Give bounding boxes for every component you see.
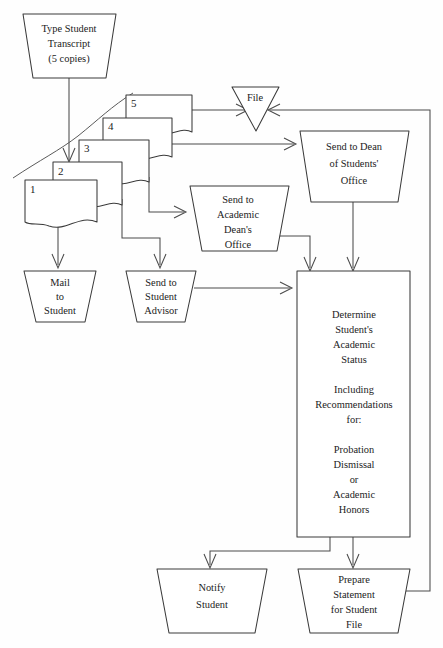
connector-academic-dean-to-process [277, 236, 316, 271]
document-4-number: 4 [108, 120, 114, 132]
node-academic-dean[interactable]: Send to Academic Dean's Office [190, 186, 289, 251]
connector-doc2-to-student-advisor [122, 199, 166, 268]
determine-status-line-2: Student's [335, 324, 373, 335]
academic-dean-line-4: Office [225, 239, 252, 250]
document-5-number: 5 [131, 97, 137, 109]
node-dean-students[interactable]: Send to Dean of Students' Office [300, 131, 409, 202]
mail-student-line-1: Mail [50, 277, 70, 288]
dean-students-line-2: of Students' [330, 158, 379, 169]
connector-process-to-notify [204, 537, 330, 568]
node-mail-student[interactable]: Mail to Student [24, 271, 96, 322]
dean-students-line-3: Office [341, 175, 368, 186]
connector-doc1-to-mail [52, 227, 64, 268]
connector-process-to-prepare [347, 537, 359, 568]
academic-dean-line-2: Academic [217, 209, 260, 220]
node-notify-student[interactable]: Notify Student [157, 569, 267, 633]
determine-status-line-11: Dismissal [334, 459, 375, 470]
document-1: 1 [25, 180, 97, 227]
determine-status-line-3: Academic [333, 339, 376, 350]
node-type-transcript[interactable]: Type Student Transcript (5 copies) [23, 14, 116, 78]
academic-dean-line-3: Dean's [224, 224, 252, 235]
node-student-advisor[interactable]: Send to Student Advisor [126, 271, 196, 322]
determine-status-line-6: Including [334, 384, 374, 395]
connector-doc3-to-academic-dean [149, 177, 186, 218]
mail-student-line-3: Student [44, 305, 76, 316]
determine-status-line-8: for: [346, 414, 361, 425]
document-3-number: 3 [84, 142, 90, 154]
node-determine-status[interactable]: Determine Student's Academic Status Incl… [297, 271, 410, 537]
determine-status-line-7: Recommendations [315, 399, 392, 410]
determine-status-line-4: Status [341, 354, 366, 365]
node-prepare-statement[interactable]: Prepare Statement for Student File [298, 569, 410, 633]
mail-student-line-2: to [56, 291, 64, 302]
notify-student-line-1: Notify [198, 582, 226, 593]
file-label: File [247, 92, 264, 103]
determine-status-line-14: Honors [339, 504, 370, 515]
notify-student-line-2: Student [196, 599, 228, 610]
connector-transcript-to-stack [63, 78, 75, 162]
connector-advisor-to-process [194, 282, 292, 294]
document-1-number: 1 [30, 183, 36, 195]
type-transcript-line-1: Type Student [42, 23, 97, 34]
determine-status-line-1: Determine [332, 309, 376, 320]
student-advisor-line-2: Student [145, 291, 177, 302]
document-2-number: 2 [58, 165, 64, 177]
student-advisor-line-1: Send to [145, 277, 176, 288]
determine-status-line-12: or [350, 474, 359, 485]
node-file[interactable]: File [232, 87, 279, 131]
connector-doc4-to-dean-students [172, 138, 296, 150]
flowchart-canvas: 5 4 3 2 1 Type Student Transcript (5 [0, 0, 443, 648]
prepare-statement-line-4: File [346, 619, 363, 630]
dean-students-line-1: Send to Dean [326, 141, 383, 152]
connector-doc5-to-file [192, 104, 248, 116]
prepare-statement-line-2: Statement [333, 589, 375, 600]
type-transcript-line-3: (5 copies) [48, 53, 89, 65]
prepare-statement-line-1: Prepare [338, 574, 370, 585]
connector-dean-students-to-process [347, 202, 359, 271]
determine-status-line-10: Probation [334, 444, 375, 455]
academic-dean-line-1: Send to [222, 194, 253, 205]
prepare-statement-line-3: for Student [331, 604, 378, 615]
student-advisor-line-3: Advisor [144, 305, 178, 316]
determine-status-line-13: Academic [333, 489, 376, 500]
type-transcript-line-2: Transcript [48, 38, 90, 49]
flowchart-svg: 5 4 3 2 1 Type Student Transcript (5 [0, 0, 443, 648]
